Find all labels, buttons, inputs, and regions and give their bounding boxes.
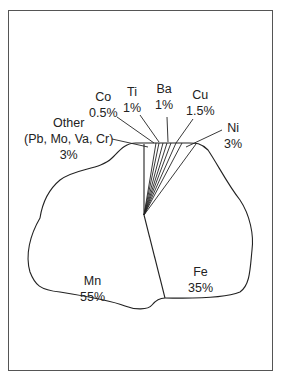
label-ni-name: Ni — [224, 120, 242, 136]
label-cu-pct: 1.5% — [186, 103, 215, 119]
leader-lines — [112, 115, 222, 147]
label-cu: Cu 1.5% — [186, 87, 215, 119]
label-fe-name: Fe — [188, 264, 213, 280]
label-other-pct: 3% — [24, 147, 113, 163]
label-co-name: Co — [89, 89, 118, 105]
label-ti: Ti 1% — [123, 84, 141, 116]
label-other-name: Other — [24, 115, 113, 131]
label-other: Other (Pb, Mo, Va, Cr) 3% — [24, 115, 113, 163]
label-ti-name: Ti — [123, 84, 141, 100]
label-mn-pct: 55% — [80, 289, 105, 305]
label-ba-pct: 1% — [155, 97, 173, 113]
nodule-outline — [28, 143, 252, 309]
label-ti-pct: 1% — [123, 100, 141, 116]
label-cu-name: Cu — [186, 87, 215, 103]
label-mn-name: Mn — [80, 273, 105, 289]
label-ba-name: Ba — [155, 81, 173, 97]
label-ni-pct: 3% — [224, 136, 242, 152]
label-mn: Mn 55% — [80, 273, 105, 305]
label-fe: Fe 35% — [188, 264, 213, 296]
label-fe-pct: 35% — [188, 280, 213, 296]
minor-wedge-lines — [144, 143, 196, 215]
nodule-pie-diagram — [0, 0, 282, 379]
label-ba: Ba 1% — [155, 81, 173, 113]
label-ni: Ni 3% — [224, 120, 242, 152]
mn-fe-divider — [144, 215, 165, 298]
label-other-sub: (Pb, Mo, Va, Cr) — [24, 131, 113, 147]
